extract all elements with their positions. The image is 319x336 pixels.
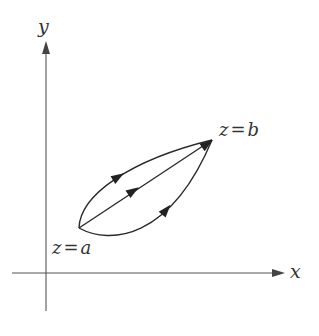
y-axis-arrow-icon — [42, 41, 50, 54]
upper-arrow-icon — [111, 169, 127, 184]
straight-line — [79, 140, 212, 228]
lower-curve — [79, 140, 212, 236]
contour-diagram: y x z=a z=b — [0, 0, 319, 336]
end-point-label: z=b — [218, 119, 259, 140]
x-axis-arrow-icon — [272, 269, 285, 277]
start-point-label: z=a — [51, 237, 91, 258]
x-axis-label: x — [290, 260, 301, 282]
x-axis — [12, 269, 285, 277]
y-axis — [42, 41, 50, 311]
y-axis-label: y — [37, 15, 49, 37]
svg-text:z=a: z=a — [51, 237, 91, 258]
svg-text:z=b: z=b — [218, 119, 259, 140]
